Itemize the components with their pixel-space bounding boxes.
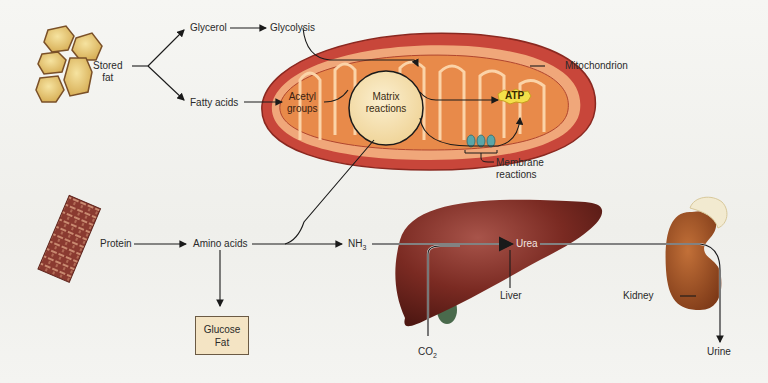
protein-label: Protein [100,238,132,250]
atp-label: ATP [505,90,524,101]
matrix-line2: reactions [362,103,410,115]
stored-fat-line2: fat [93,72,122,84]
membrane-reactions-label: Membrane reactions [496,157,544,181]
protein-bar-icon [38,195,101,282]
membrane-line1: Membrane [496,157,544,169]
mitochondrion-label: Mitochondrion [565,60,628,72]
matrix-line1: Matrix [362,91,410,103]
stored-fat-label: Stored fat [93,60,122,84]
kidney-illustration [666,197,727,310]
membrane-line2: reactions [496,169,544,181]
matrix-reactions-label: Matrix reactions [362,91,410,115]
stored-fat-line1: Stored [93,60,122,72]
liver-label: Liver [500,290,522,302]
diagram-artwork [0,0,768,383]
liver-illustration [395,200,602,327]
acetyl-line2: groups [287,103,318,115]
glucose-fat-box: Glucose Fat [195,316,249,355]
glycerol-label: Glycerol [190,22,227,34]
nh3-label: NH3 [348,238,366,254]
co2-label: CO2 [418,346,437,362]
acetyl-line1: Acetyl [287,91,318,103]
glycolysis-label: Glycolysis [270,22,315,34]
kidney-label: Kidney [623,290,654,302]
amino-acids-label: Amino acids [193,238,247,250]
acetyl-groups-label: Acetyl groups [287,91,318,115]
diagram-canvas: Stored fat Glycerol Glycolysis Fatty aci… [0,0,768,383]
membrane-proteins-icon [467,135,495,147]
nh3-text: NH [348,238,362,249]
urea-label: Urea [516,238,538,250]
fatty-acids-label: Fatty acids [190,97,238,109]
co2-subscript: 2 [433,352,437,359]
nh3-subscript: 3 [362,244,366,251]
urine-label: Urine [707,346,731,358]
glucose-text: Glucose [196,323,248,336]
fat-text: Fat [196,336,248,349]
co2-text: CO [418,346,433,357]
